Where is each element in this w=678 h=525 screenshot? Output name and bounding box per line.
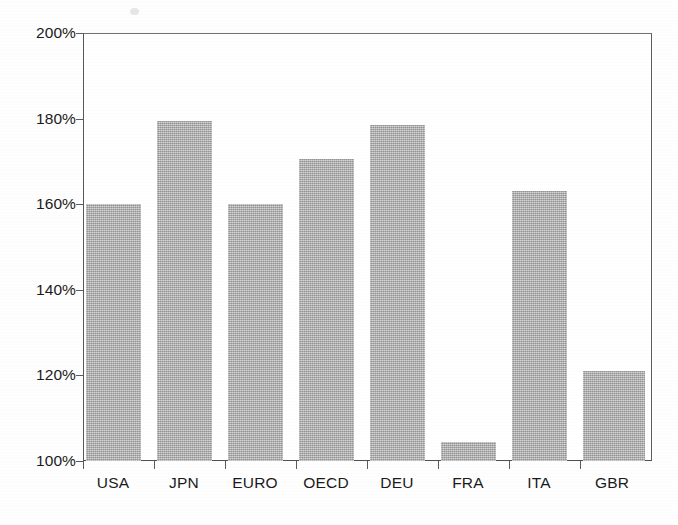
y-tick-label: 120% [4, 366, 76, 384]
x-tick-mark [438, 461, 439, 469]
bar-fra [441, 442, 496, 461]
x-tick-mark [367, 461, 368, 469]
y-tick-label: 140% [4, 281, 76, 299]
bar-euro [228, 204, 283, 461]
y-tick-label: 180% [4, 110, 76, 128]
x-tick-mark [83, 461, 84, 469]
bar-gbr [583, 371, 645, 461]
bar-usa [86, 204, 141, 461]
x-tick-label-ita: ITA [527, 474, 551, 492]
x-tick-mark [296, 461, 297, 469]
bar-deu [370, 125, 425, 461]
x-tick-label-usa: USA [97, 474, 129, 492]
x-tick-label-oecd: OECD [303, 474, 349, 492]
bar-oecd [299, 159, 354, 461]
x-tick-label-euro: EURO [232, 474, 278, 492]
x-tick-mark [225, 461, 226, 469]
bar-jpn [157, 121, 212, 461]
x-tick-label-gbr: GBR [595, 474, 629, 492]
x-tick-label-fra: FRA [452, 474, 484, 492]
bar-chart: 200% 180% 160% 140% 120% 100% [0, 0, 678, 525]
x-tick-label-jpn: JPN [169, 474, 199, 492]
scan-artifact [130, 8, 139, 15]
y-tick-label: 160% [4, 195, 76, 213]
x-tick-mark [154, 461, 155, 469]
y-tick-label: 100% [4, 452, 76, 470]
x-tick-mark [509, 461, 510, 469]
bar-ita [512, 191, 567, 461]
x-tick-label-deu: DEU [380, 474, 413, 492]
x-tick-mark [580, 461, 581, 469]
y-tick-label: 200% [4, 24, 76, 42]
